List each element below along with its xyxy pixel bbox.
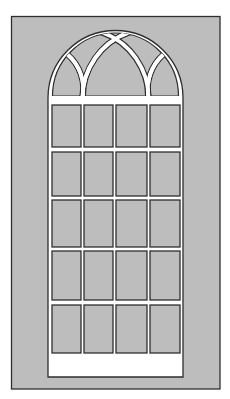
pane-r5-c2	[84, 305, 113, 353]
pane-r4-c1	[52, 251, 81, 300]
pane-r2-c2	[84, 152, 113, 196]
pane-r3-c4	[150, 200, 180, 247]
pane-r2-c3	[116, 152, 147, 196]
pane-r5-c1	[52, 305, 81, 353]
pane-r3-c1	[52, 200, 81, 247]
pane-r3-c3	[116, 200, 147, 247]
pane-r1-c3	[116, 105, 147, 147]
pane-r1-c1	[52, 105, 81, 147]
arched-window-drawing	[0, 0, 230, 399]
transom-bar	[49, 96, 182, 105]
pane-r4-c3	[116, 251, 147, 300]
pane-r4-c2	[84, 251, 113, 300]
pane-r2-c4	[150, 152, 180, 196]
pane-r1-c4	[150, 105, 180, 147]
pane-r5-c3	[116, 305, 147, 353]
pane-r4-c4	[150, 251, 180, 300]
pane-grid	[52, 105, 180, 353]
pane-r2-c1	[52, 152, 81, 196]
pane-r5-c4	[150, 305, 180, 353]
window-illustration	[0, 0, 230, 399]
pane-r1-c2	[84, 105, 113, 147]
pane-r3-c2	[84, 200, 113, 247]
